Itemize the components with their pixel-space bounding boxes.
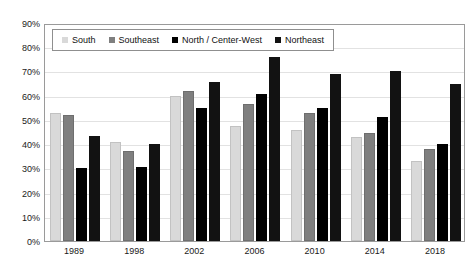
bar [317,108,328,241]
x-axis-tick-label: 2002 [164,246,224,257]
y-axis-tick-label: 90% [2,19,40,29]
legend-label: Southeast [119,35,160,45]
legend-swatch-icon [109,37,115,43]
chart-legend: SouthSoutheastNorth / Center-WestNorthea… [52,29,334,51]
bar [209,82,220,241]
x-axis-tick-label: 1998 [104,246,164,257]
bar-group [45,25,105,241]
bar-group [286,25,346,241]
bar [136,167,147,241]
bar [89,136,100,241]
legend-label: Northeast [285,35,324,45]
legend-item[interactable]: North / Center-West [172,35,262,45]
bar [330,74,341,241]
legend-swatch-icon [62,37,68,43]
legend-swatch-icon [172,37,178,43]
bar [50,113,61,241]
x-axis-tick-label: 2014 [345,246,405,257]
bar [364,133,375,241]
x-axis-tick-label: 1989 [44,246,104,257]
bar [437,144,448,241]
bar [269,57,280,241]
y-axis-tick-label: 10% [2,213,40,223]
y-axis-tick-label: 40% [2,140,40,150]
bar [424,149,435,241]
bar-group [165,25,225,241]
bar [230,126,241,241]
bar [377,117,388,241]
x-axis-labels: 1989199820022006201020142018 [44,246,465,266]
legend-item[interactable]: South [62,35,96,45]
bar [170,96,181,241]
bars-layer [45,25,464,241]
bar [243,104,254,241]
legend-swatch-icon [275,37,281,43]
bar [256,94,267,241]
bar-group [346,25,406,241]
legend-item[interactable]: Southeast [109,35,160,45]
bar [196,108,207,241]
y-axis-tick-label: 0% [2,237,40,247]
bar [450,84,461,241]
bar [411,161,422,241]
legend-label: South [72,35,96,45]
x-axis-tick-label: 2010 [285,246,345,257]
bar-chart: 0%10%20%30%40%50%60%70%80%90% 1989199820… [0,0,473,271]
bar [351,137,362,241]
bar [110,142,121,241]
y-axis-tick-label: 20% [2,189,40,199]
y-axis-tick-label: 60% [2,92,40,102]
bar [76,168,87,241]
bar [63,115,74,241]
bar [183,91,194,241]
y-axis-tick-label: 80% [2,43,40,53]
legend-label: North / Center-West [182,35,262,45]
y-axis-tick-label: 70% [2,67,40,77]
y-axis-labels: 0%10%20%30%40%50%60%70%80%90% [0,0,40,271]
bar [123,151,134,241]
x-axis-tick-label: 2006 [224,246,284,257]
bar [291,130,302,241]
y-axis-tick-label: 30% [2,164,40,174]
bar [390,71,401,241]
bar [149,144,160,241]
bar-group [225,25,285,241]
legend-item[interactable]: Northeast [275,35,324,45]
bar-group [406,25,466,241]
y-axis-tick-label: 50% [2,116,40,126]
bar-group [105,25,165,241]
x-axis-tick-label: 2018 [405,246,465,257]
bar [304,113,315,241]
plot-area [44,24,465,242]
